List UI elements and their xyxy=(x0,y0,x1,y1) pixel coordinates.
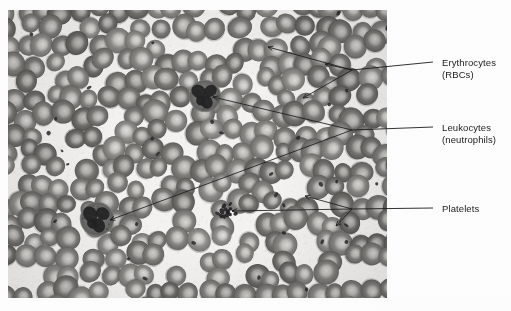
label-leukocytes-line2: (neutrophils) xyxy=(442,134,496,145)
label-platelets-line1: Platelets xyxy=(442,203,479,214)
label-erythrocytes-line2: (RBCs) xyxy=(442,69,474,80)
micrograph-image xyxy=(8,10,387,298)
figure-blood-smear-labeled: Erythrocytes(RBCs) Leukocytes(neutrophil… xyxy=(0,0,511,311)
label-erythrocytes-line1: Erythrocytes xyxy=(442,57,496,68)
label-erythrocytes: Erythrocytes(RBCs) xyxy=(442,57,496,80)
label-leukocytes: Leukocytes(neutrophils) xyxy=(442,122,496,145)
label-platelets: Platelets xyxy=(442,203,479,215)
label-leukocytes-line1: Leukocytes xyxy=(442,122,491,133)
blood-smear-canvas xyxy=(8,10,387,298)
